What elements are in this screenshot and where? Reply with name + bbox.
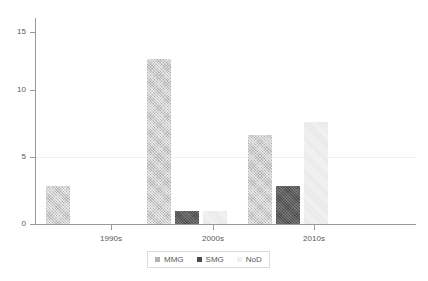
y-tick-label-0: 0 (4, 220, 26, 228)
legend-label-mmg: MMG (164, 255, 184, 264)
x-axis-line (35, 224, 416, 225)
y-tick-mark-0 (30, 224, 35, 225)
x-tick-mark-2010s (314, 225, 315, 230)
x-tick-label-1990s: 1990s (86, 234, 136, 243)
legend-label-nod: NoD (246, 255, 262, 264)
bar-2010s-nod (304, 122, 328, 224)
y-tick-label-5: 5 (4, 153, 26, 161)
y-tick-label-15: 15 (4, 28, 26, 36)
bar-chart: 15 10 5 0 1990s 2000s 2010s MMG SMG (0, 0, 428, 281)
x-tick-label-2000s: 2000s (188, 234, 238, 243)
x-tick-mark-2000s (213, 225, 214, 230)
nod-swatch-icon (237, 257, 242, 262)
plot-area (35, 18, 416, 224)
chart-legend: MMG SMG NoD (147, 251, 270, 268)
legend-label-smg: SMG (206, 255, 224, 264)
bar-2010s-mmg (248, 135, 272, 224)
smg-swatch-icon (197, 257, 202, 262)
bar-2000s-smg (175, 211, 199, 224)
bar-2000s-nod (203, 211, 227, 224)
legend-item-smg: SMG (197, 255, 224, 264)
bar-2000s-mmg (147, 59, 171, 224)
bar-1990s-mmg (46, 186, 70, 224)
x-tick-label-2010s: 2010s (289, 234, 339, 243)
legend-item-mmg: MMG (155, 255, 184, 264)
legend-item-nod: NoD (237, 255, 262, 264)
x-tick-mark-1990s (111, 225, 112, 230)
bar-2010s-smg (276, 186, 300, 224)
y-tick-label-10: 10 (4, 86, 26, 94)
mmg-swatch-icon (155, 257, 160, 262)
